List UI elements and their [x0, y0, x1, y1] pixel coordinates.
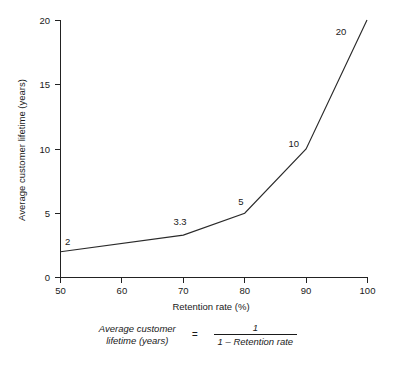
- formula-lhs-line2: lifetime (years): [99, 335, 176, 347]
- y-tick-label-20: 20: [39, 15, 50, 26]
- formula-denominator: 1 – Retention rate: [214, 335, 298, 347]
- y-tick-marks: [55, 21, 61, 278]
- formula-left-side: Average customer lifetime (years): [99, 323, 176, 346]
- formula-block: Average customer lifetime (years) = 1 1 …: [0, 322, 396, 347]
- y-tick-label-10: 10: [39, 144, 50, 155]
- formula-numerator: 1: [245, 322, 266, 334]
- y-tick-label-15: 15: [39, 79, 50, 90]
- y-tick-label-0: 0: [45, 272, 50, 283]
- x-tick-label-50: 50: [55, 285, 66, 296]
- point-label-20: 20: [336, 26, 347, 37]
- point-label-10: 10: [288, 138, 299, 149]
- chart-plot-area: 20 15 10 5 0 50 60 70 80 90 100 2 3.3 5 …: [0, 0, 396, 365]
- x-tick-marks: [61, 278, 368, 284]
- x-tick-label-80: 80: [239, 285, 250, 296]
- retention-lifetime-curve: [61, 20, 368, 252]
- formula-fraction: 1 1 – Retention rate: [214, 322, 298, 347]
- x-tick-label-100: 100: [360, 285, 376, 296]
- point-label-5: 5: [238, 196, 243, 207]
- formula-equals-sign: =: [192, 329, 198, 340]
- chart-figure: 20 15 10 5 0 50 60 70 80 90 100 2 3.3 5 …: [0, 0, 396, 365]
- x-tick-label-70: 70: [178, 285, 189, 296]
- x-tick-label-90: 90: [301, 285, 312, 296]
- point-label-3-3: 3.3: [173, 216, 186, 227]
- y-axis-title: Average customer lifetime (years): [16, 79, 27, 221]
- formula-lhs-line1: Average customer: [99, 323, 176, 335]
- point-label-2: 2: [65, 236, 70, 247]
- x-tick-label-60: 60: [117, 285, 128, 296]
- x-axis-title: Retention rate (%): [172, 301, 249, 312]
- y-tick-label-5: 5: [45, 208, 50, 219]
